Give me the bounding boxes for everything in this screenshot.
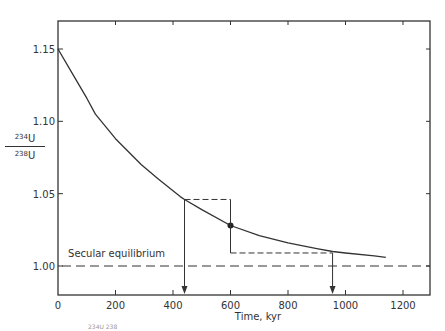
x-tick-label: 600: [221, 300, 240, 311]
decay-curve: [58, 49, 386, 257]
denominator-element: U: [28, 150, 35, 161]
arrow-down-icon: [330, 286, 336, 294]
arrow-down-icon: [182, 286, 188, 294]
y-tick-label: 1.05: [33, 189, 55, 200]
secular-equilibrium-label: Secular equilibrium: [68, 248, 165, 259]
numerator-element: U: [28, 133, 35, 144]
denominator-isotope-mass: 238: [15, 150, 28, 158]
numerator-isotope-mass: 234: [15, 133, 28, 141]
y-axis-title-numerator: 234U: [5, 131, 45, 147]
x-axis: 020040060080010001200: [55, 21, 416, 311]
series-layer: [58, 49, 430, 266]
uranium-ratio-chart: 020040060080010001200 1.001.051.101.15 S…: [0, 0, 445, 331]
x-tick-label: 1000: [333, 300, 358, 311]
y-axis: 1.001.051.101.15: [33, 44, 430, 272]
annotation-layer: Secular equilibrium: [68, 199, 336, 294]
x-axis-title: Time, kyr: [234, 311, 282, 322]
y-axis-title: 234U 238U: [5, 131, 45, 162]
y-tick-label: 1.10: [33, 116, 55, 127]
x-tick-label: 200: [106, 300, 125, 311]
x-tick-label: 400: [163, 300, 182, 311]
x-tick-label: 0: [55, 300, 61, 311]
y-tick-label: 1.00: [33, 261, 55, 272]
y-tick-label: 1.15: [33, 44, 55, 55]
x-tick-label: 800: [278, 300, 297, 311]
x-tick-label: 1200: [390, 300, 415, 311]
y-axis-title-denominator: 238U: [5, 147, 45, 162]
caption-fragment: 234U 238: [88, 323, 117, 330]
